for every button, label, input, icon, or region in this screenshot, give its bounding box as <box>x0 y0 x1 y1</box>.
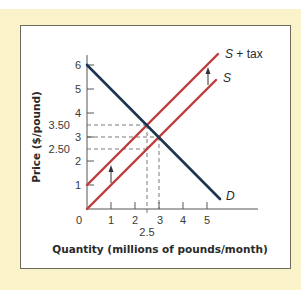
dashed-guides <box>87 125 159 216</box>
x-tick-label: 3 <box>157 214 163 226</box>
y-tick-label: 3 <box>75 131 81 143</box>
curve-label-s-plus-tax: S + tax <box>225 47 263 61</box>
y-tick-label: 2 <box>75 155 81 167</box>
y-tick-label: 1 <box>75 179 81 191</box>
y-tick-label: 6 <box>75 59 81 71</box>
arrow-up-icon <box>206 67 211 85</box>
x-axis-title: Quantity (millions of pounds/month) <box>52 243 267 255</box>
arrow-up-icon <box>109 165 114 183</box>
y-axis-title: Price ($/pound) <box>30 91 42 182</box>
supply-demand-chart: 6 5 4 3.50 3 2.50 2 1 0 1 2 3 4 5 2.5 S … <box>0 0 301 290</box>
origin-label: 0 <box>76 214 82 226</box>
x-tick-label: 4 <box>180 214 186 226</box>
y-tick-label-3-50: 3.50 <box>49 119 70 131</box>
y-tick-label: 5 <box>75 83 81 95</box>
curve-label-s: S <box>223 71 231 85</box>
x-tick-label-2-5: 2.5 <box>139 226 154 238</box>
supply-plus-tax-curve <box>87 54 218 185</box>
y-tick-label-2-50: 2.50 <box>49 143 70 155</box>
x-tick-label: 1 <box>108 214 114 226</box>
y-tick-label: 4 <box>75 107 81 119</box>
x-tick-label: 5 <box>204 214 210 226</box>
supply-curve <box>87 80 216 209</box>
demand-curve <box>87 65 220 199</box>
axes <box>87 55 258 209</box>
x-tick-label: 2 <box>132 214 138 226</box>
curve-label-d: D <box>226 189 235 203</box>
